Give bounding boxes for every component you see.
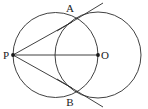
geometry-canvas: P O A B: [0, 0, 148, 109]
point-P-dot: [11, 53, 15, 57]
point-O-dot: [96, 53, 100, 57]
geometry-figure: P O A B: [0, 0, 148, 109]
point-label-A: A: [66, 2, 74, 14]
point-label-B: B: [66, 96, 73, 108]
point-label-O: O: [101, 49, 109, 61]
point-label-P: P: [3, 49, 9, 61]
